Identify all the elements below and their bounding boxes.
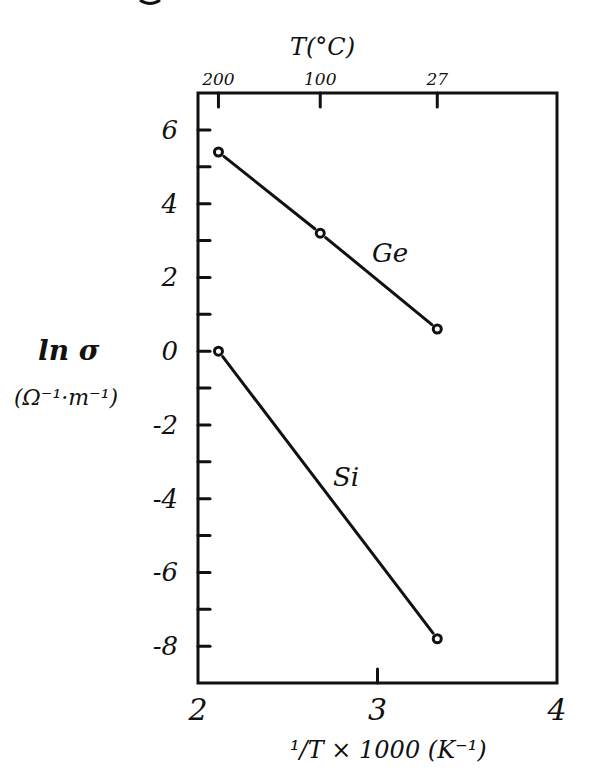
data-point-marker — [433, 635, 441, 643]
y-tick-label: 2 — [160, 262, 178, 292]
x-tick-label: 2 — [187, 692, 207, 727]
plot-frame — [198, 93, 557, 683]
x-tick-label: 4 — [546, 692, 566, 727]
y-tick-label: -8 — [153, 631, 178, 661]
x-axis-title: ¹/T × 1000 (K⁻¹) — [290, 736, 487, 764]
y-tick-label: -6 — [153, 557, 178, 587]
top-axis-ticks: 20010027 — [201, 69, 448, 107]
chart: 6420-2-4-6-8 234 20010027 T(°C) ln σ (Ω⁻… — [0, 0, 589, 780]
top-tick-label: 200 — [201, 69, 235, 89]
y-tick-label: 0 — [161, 336, 178, 366]
y-axis-ticks — [198, 130, 210, 646]
series-si — [214, 347, 441, 643]
series-label-si: Si — [333, 462, 359, 492]
y-tick-label: 4 — [160, 189, 178, 219]
y-tick-label: -4 — [153, 484, 178, 514]
data-series — [214, 148, 441, 643]
series-segment — [224, 156, 315, 228]
y-axis-title: ln σ — [38, 334, 100, 367]
cropped-glyph — [140, 0, 160, 4]
data-point-marker — [316, 229, 324, 237]
top-tick-label: 100 — [304, 69, 337, 89]
series-segment — [223, 357, 433, 633]
top-tick-label: 27 — [425, 69, 448, 89]
x-tick-label: 3 — [368, 692, 387, 727]
y-axis-units: (Ω⁻¹·m⁻¹) — [14, 385, 118, 410]
data-point-marker — [214, 347, 222, 355]
data-point-marker — [214, 148, 222, 156]
y-axis-tick-labels: 6420-2-4-6-8 — [153, 115, 178, 661]
x-axis-tick-labels: 234 — [187, 692, 566, 727]
y-tick-label: 6 — [161, 115, 178, 145]
data-point-marker — [433, 325, 441, 333]
series-label-ge: Ge — [372, 238, 408, 268]
top-axis-title: T(°C) — [290, 33, 355, 61]
y-tick-label: -2 — [153, 410, 178, 440]
